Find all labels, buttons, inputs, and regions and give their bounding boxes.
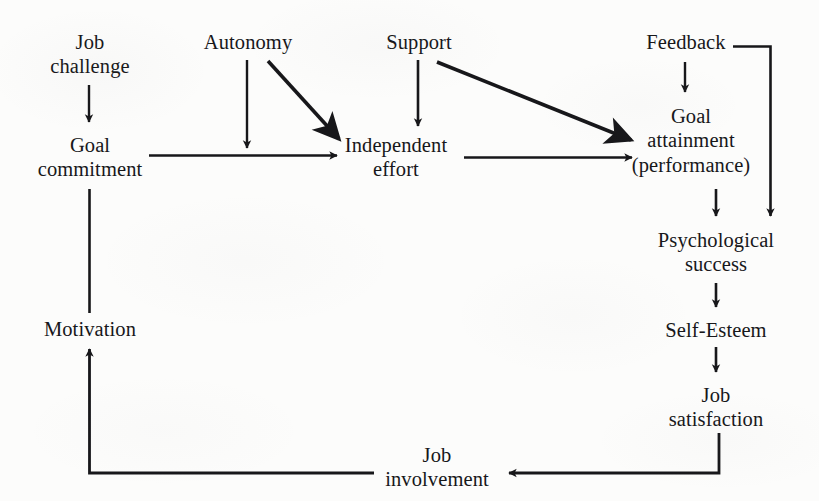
node-label-line: Autonomy (204, 30, 293, 54)
node-independent-effort: Independenteffort (345, 133, 447, 182)
node-autonomy: Autonomy (204, 30, 293, 54)
node-self-esteem: Self-Esteem (665, 318, 766, 342)
node-label-line: Support (386, 30, 452, 54)
node-job-challenge: Jobchallenge (50, 30, 129, 79)
diagram-canvas: JobchallengeGoalcommitmentAutonomySuppor… (0, 0, 819, 501)
node-label-line: Independent (345, 133, 447, 157)
edge-autonomy-to-independent-effort-diagonal (268, 61, 339, 139)
node-label-line: commitment (38, 157, 143, 181)
node-label-line: satisfaction (669, 407, 764, 431)
edge-job-satisfaction-to-job-involvement (509, 433, 719, 473)
node-label-line: Self-Esteem (665, 318, 766, 342)
node-label-line: attainment (632, 128, 751, 152)
node-label-line: effort (345, 157, 447, 181)
node-goal-attainment: Goalattainment(performance) (632, 104, 751, 177)
node-label-line: involvement (385, 467, 489, 491)
node-support: Support (386, 30, 452, 54)
node-label-line: Job (385, 443, 489, 467)
node-job-satisfaction: Jobsatisfaction (669, 383, 764, 432)
node-label-line: Goal (38, 133, 143, 157)
node-motivation: Motivation (44, 317, 136, 341)
node-psychological-success: Psychologicalsuccess (658, 228, 774, 277)
edge-support-to-goal-attainment (437, 62, 631, 140)
node-label-line: challenge (50, 54, 129, 78)
node-label-line: Job (50, 30, 129, 54)
node-label-line: Job (669, 383, 764, 407)
node-label-line: Feedback (646, 30, 725, 54)
node-label-line: Psychological (658, 228, 774, 252)
node-label-line: Goal (632, 104, 751, 128)
node-feedback: Feedback (646, 30, 725, 54)
node-label-line: Motivation (44, 317, 136, 341)
node-label-line: (performance) (632, 153, 751, 177)
edge-job-involvement-to-motivation (90, 349, 375, 473)
node-goal-commitment: Goalcommitment (38, 133, 143, 182)
node-job-involvement: Jobinvolvement (385, 443, 489, 492)
node-label-line: success (658, 252, 774, 276)
